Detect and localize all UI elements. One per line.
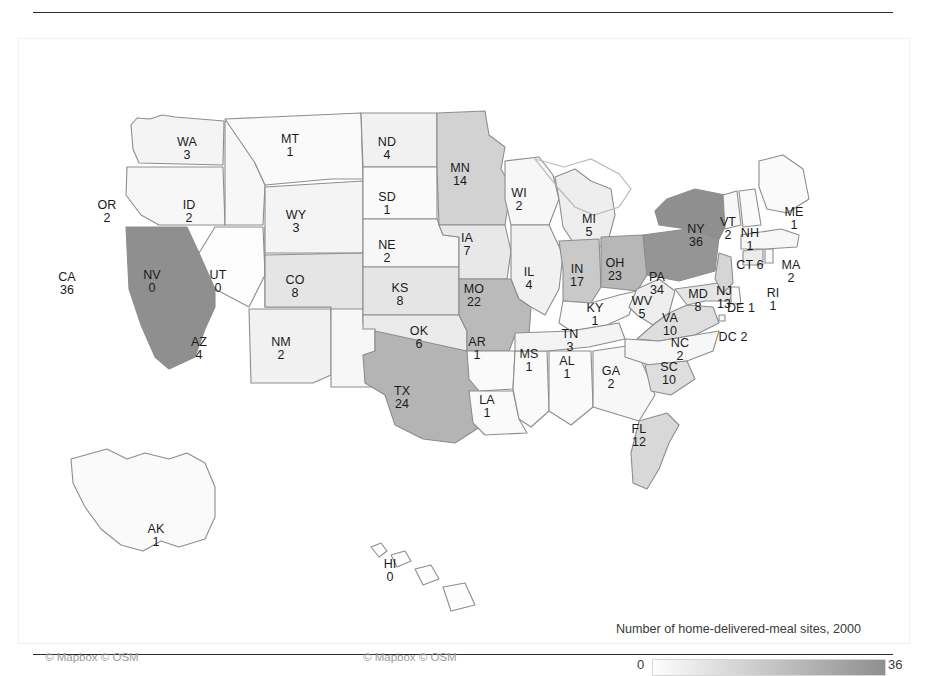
legend-gradient-bar	[652, 659, 886, 676]
attribution-right: © Mapbox © OSM	[363, 651, 457, 663]
state-abbr-pa: PA	[635, 271, 679, 284]
state-abbr-ne: NE	[365, 239, 409, 252]
state-value-ne: 2	[365, 252, 409, 265]
legend-bar-wrap: 0 36	[616, 640, 916, 657]
state-value-pa: 34	[635, 284, 679, 297]
state-value-ma: 2	[769, 272, 813, 285]
state-label-id: ID2	[167, 199, 211, 225]
state-value-nj: 13	[702, 298, 746, 311]
state-value-ca: 36	[45, 284, 89, 297]
state-abbr-ca: CA	[45, 271, 89, 284]
state-abbr-mt: MT	[268, 133, 312, 146]
state-value-il: 4	[507, 279, 551, 292]
legend: Number of home-delivered-meal sites, 200…	[616, 622, 916, 658]
state-abbr-mo: MO	[452, 283, 496, 296]
state-label-pa: PA34	[635, 271, 679, 297]
state-value-az: 4	[177, 349, 221, 362]
state-label-az: AZ4	[177, 336, 221, 362]
state-label-ma: MA2	[769, 259, 813, 285]
state-value-mt: 1	[268, 146, 312, 159]
state-abbr-fl: FL	[617, 423, 661, 436]
state-label-il: IL4	[507, 266, 551, 292]
state-label-ky: KY1	[573, 302, 617, 328]
state-value-ut: 0	[196, 282, 240, 295]
map-canvas[interactable]: WA3OR2CA36ID2NV0UT0AZ4MT1WY3CO8NM2ND4SD1…	[19, 39, 909, 643]
state-value-nd: 4	[365, 149, 409, 162]
state-value-dc: 2	[740, 330, 747, 344]
state-value-mi: 5	[567, 226, 611, 239]
state-abbr-wv: WV	[620, 295, 664, 308]
state-value-id: 2	[167, 212, 211, 225]
state-label-ia: IA7	[445, 232, 489, 258]
state-abbr-sc: SC	[647, 361, 691, 374]
legend-max-label: 36	[888, 657, 902, 672]
state-label-me: ME1	[772, 206, 816, 232]
state-label-mn: MN14	[438, 162, 482, 188]
state-label-ne: NE2	[365, 239, 409, 265]
state-abbr-va: VA	[648, 312, 692, 325]
state-value-ak: 1	[134, 536, 178, 549]
state-label-ar: AR1	[455, 336, 499, 362]
state-abbr-nd: ND	[365, 136, 409, 149]
state-label-mt: MT1	[268, 133, 312, 159]
state-abbr-me: ME	[772, 206, 816, 219]
state-label-sd: SD1	[365, 191, 409, 217]
state-abbr-nc: NC	[658, 337, 702, 350]
state-value-hi: 0	[368, 571, 412, 584]
state-value-mo: 22	[452, 296, 496, 309]
state-abbr-wy: WY	[274, 209, 318, 222]
state-label-ks: KS8	[378, 282, 422, 308]
state-label-ct: CT 6	[728, 259, 772, 272]
state-value-ri: 1	[751, 300, 795, 313]
state-value-tx: 24	[380, 398, 424, 411]
state-value-mn: 14	[438, 175, 482, 188]
state-abbr-ak: AK	[134, 523, 178, 536]
state-abbr-ar: AR	[455, 336, 499, 349]
state-abbr-wi: WI	[497, 187, 541, 200]
state-value-or: 2	[85, 212, 129, 225]
state-value-tn: 3	[548, 341, 592, 354]
state-value-al: 1	[545, 368, 589, 381]
state-label-nh: NH1	[728, 227, 772, 253]
state-abbr-ga: GA	[589, 365, 633, 378]
state-dc[interactable]	[719, 315, 725, 321]
bleedthrough-text-top	[210, 0, 214, 11]
state-abbr-ct: CT	[736, 258, 753, 272]
state-value-nv: 0	[130, 282, 174, 295]
state-label-fl: FL12	[617, 423, 661, 449]
state-value-me: 1	[772, 219, 816, 232]
state-label-hi: HI0	[368, 558, 412, 584]
state-value-ga: 2	[589, 378, 633, 391]
state-label-mi: MI5	[567, 213, 611, 239]
state-value-sc: 10	[647, 374, 691, 387]
state-label-va: VA10	[648, 312, 692, 338]
state-abbr-id: ID	[167, 199, 211, 212]
state-abbr-ia: IA	[445, 232, 489, 245]
state-abbr-ok: OK	[397, 325, 441, 338]
state-label-nd: ND4	[365, 136, 409, 162]
state-label-nv: NV0	[130, 269, 174, 295]
state-label-al: AL1	[545, 355, 589, 381]
state-label-wa: WA3	[165, 136, 209, 162]
state-label-or: OR2	[85, 199, 129, 225]
state-abbr-az: AZ	[177, 336, 221, 349]
state-label-sc: SC10	[647, 361, 691, 387]
state-label-ok: OK6	[397, 325, 441, 351]
state-abbr-ky: KY	[573, 302, 617, 315]
top-horizontal-rule	[33, 12, 893, 13]
state-label-tx: TX24	[380, 385, 424, 411]
state-abbr-ks: KS	[378, 282, 422, 295]
state-abbr-ri: RI	[751, 287, 795, 300]
state-abbr-hi: HI	[368, 558, 412, 571]
state-label-dc: DC 2	[711, 331, 755, 344]
state-abbr-oh: OH	[593, 257, 637, 270]
state-value-ct: 6	[757, 258, 764, 272]
state-label-mo: MO22	[452, 283, 496, 309]
state-abbr-or: OR	[85, 199, 129, 212]
state-abbr-al: AL	[545, 355, 589, 368]
state-label-nc: NC2	[658, 337, 702, 363]
state-abbr-mi: MI	[567, 213, 611, 226]
legend-min-label: 0	[637, 657, 644, 672]
state-value-ks: 8	[378, 295, 422, 308]
state-abbr-nm: NM	[259, 336, 303, 349]
